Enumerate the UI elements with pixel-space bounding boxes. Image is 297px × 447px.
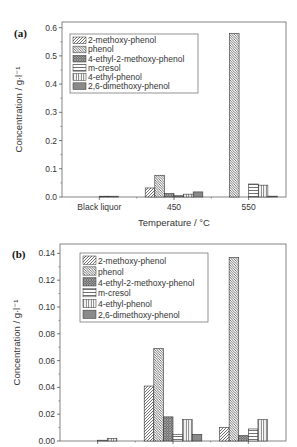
bar <box>155 175 165 197</box>
legend-label: 2,6-dimethoxy-phenol <box>98 310 180 320</box>
bar <box>154 349 164 441</box>
bar <box>258 420 268 441</box>
y-tick-label: 0.02 <box>38 409 55 419</box>
legend-swatch <box>73 55 86 62</box>
legend-label: 4-ethyl-phenol <box>98 299 152 309</box>
legend-swatch <box>83 289 96 297</box>
x-tick-label: 450 <box>167 202 181 212</box>
legend-swatch <box>83 256 96 264</box>
panel-label: (b) <box>12 248 26 261</box>
bar <box>268 196 278 197</box>
legend-swatch <box>73 37 86 44</box>
bar <box>99 196 109 197</box>
legend-swatch <box>83 310 96 318</box>
y-axis-label: Concentration / g·l⁻¹ <box>11 300 22 386</box>
legend-label: 4-ethyl-2-methoxy-phenol <box>98 278 194 288</box>
y-tick-label: 0.6 <box>45 23 57 33</box>
y-tick-label: 0.14 <box>38 248 55 258</box>
bar <box>220 428 230 441</box>
bar <box>173 434 183 441</box>
y-tick-label: 0.3 <box>45 107 57 117</box>
bar <box>163 417 173 441</box>
y-tick-label: 0.1 <box>45 164 57 174</box>
legend: 2-methoxy-phenolphenol4-ethyl-2-methoxy-… <box>70 34 198 93</box>
bar <box>192 434 202 441</box>
legend-swatch <box>73 65 86 72</box>
y-tick-label: 0.4 <box>45 79 57 89</box>
legend-label: phenol <box>98 267 124 277</box>
legend-swatch <box>83 278 96 286</box>
legend-label: 2-methoxy-phenol <box>98 256 166 266</box>
bar <box>258 185 268 197</box>
x-tick-label: 550 <box>242 202 256 212</box>
y-tick-label: 0.00 <box>38 436 55 446</box>
y-tick-label: 0.0 <box>45 192 57 202</box>
bar <box>229 33 239 197</box>
bar <box>249 184 259 197</box>
bar <box>248 429 258 441</box>
chart-panel-b: 0.000.020.040.060.080.100.120.14Concentr… <box>11 244 286 446</box>
bar <box>107 438 117 441</box>
legend-swatch <box>73 83 86 90</box>
bar <box>184 194 194 197</box>
y-tick-label: 0.12 <box>38 275 55 285</box>
legend-swatch <box>73 74 86 81</box>
bar <box>164 194 174 197</box>
x-axis-label: Temperature / °C <box>138 217 210 228</box>
panel-label: (a) <box>14 27 27 40</box>
bar <box>193 192 203 197</box>
legend-swatch <box>83 267 96 275</box>
y-tick-label: 0.06 <box>38 356 55 366</box>
chart-panel-a: 0.00.10.20.30.40.50.6Concentration / g·l… <box>13 22 286 228</box>
legend-label: m-cresol <box>98 288 131 298</box>
bar <box>239 436 249 441</box>
y-tick-label: 0.2 <box>45 136 57 146</box>
x-tick-label: Black liquor <box>77 202 121 212</box>
y-tick-label: 0.04 <box>38 382 55 392</box>
bar <box>174 195 184 197</box>
legend: 2-methoxy-phenolphenol4-ethyl-2-methoxy-… <box>80 253 208 322</box>
y-axis-label: Concentration / g·l⁻¹ <box>13 67 24 153</box>
bar <box>109 196 119 197</box>
y-tick-label: 0.10 <box>38 302 55 312</box>
legend-label: 2,6-dimethoxy-phenol <box>88 81 170 91</box>
bar <box>183 420 193 441</box>
bar <box>145 188 155 197</box>
y-tick-label: 0.5 <box>45 51 57 61</box>
figure: 0.00.10.20.30.40.50.6Concentration / g·l… <box>0 0 297 447</box>
legend-swatch <box>83 299 96 307</box>
bar <box>98 440 108 441</box>
y-tick-label: 0.08 <box>38 329 55 339</box>
legend-swatch <box>73 46 86 53</box>
bar <box>144 386 154 441</box>
bar <box>229 257 239 441</box>
